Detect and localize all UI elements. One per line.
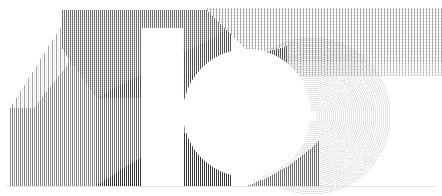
artboard xyxy=(0,0,442,196)
composition-svg xyxy=(0,0,442,196)
